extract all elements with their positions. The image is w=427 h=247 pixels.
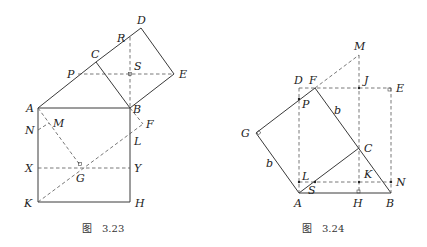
label-a: A (25, 102, 34, 115)
label-e: E (178, 68, 187, 81)
label-k: K (23, 197, 33, 210)
label-a: A (293, 197, 302, 210)
label-j: J (362, 74, 369, 87)
point-k (358, 181, 360, 183)
triangle-acb (38, 62, 130, 108)
label-k: K (363, 168, 373, 181)
geometry-figures: D R C P S E A B M N F L X Y G K H 图 3.23 (0, 0, 427, 247)
label-s: S (308, 184, 316, 197)
label-f: F (145, 118, 154, 131)
label-f: F (308, 74, 317, 87)
label-l: L (301, 170, 309, 183)
label-g: G (241, 127, 250, 140)
label-y: Y (134, 162, 143, 175)
label-x: X (24, 162, 34, 175)
label-h: H (352, 197, 363, 210)
square-abhk (38, 108, 130, 202)
line-kf (38, 124, 143, 202)
label-d: D (293, 74, 303, 87)
figure-3-24: M D F J E P b G b C K L S N A H B 图 3.24 (241, 40, 406, 234)
caption-number: 3.23 (102, 223, 124, 234)
label-m: M (52, 117, 65, 130)
figure-3-23: D R C P S E A B M N F L X Y G K H 图 3.23 (23, 14, 187, 234)
right-angle-marker-e (388, 88, 391, 91)
label-e: E (395, 82, 404, 95)
caption-prefix: 图 (302, 223, 312, 234)
line-nm (38, 123, 49, 130)
label-b: B (385, 197, 394, 210)
label-r: R (116, 32, 125, 45)
label-c: C (91, 48, 100, 61)
point-s (314, 181, 316, 183)
label-l: L (133, 135, 141, 148)
label-n: N (24, 124, 35, 137)
point-l (298, 181, 300, 183)
label-d: D (136, 14, 146, 27)
label-b-lower: b (266, 157, 273, 170)
label-c: C (364, 142, 373, 155)
point-p (298, 98, 300, 100)
label-m: M (353, 40, 366, 53)
label-p: P (66, 68, 75, 81)
label-n: N (395, 176, 406, 189)
label-p: P (301, 98, 310, 111)
caption-prefix: 图 (82, 223, 92, 234)
label-b: B (132, 103, 141, 116)
point-j (358, 87, 360, 89)
label-g: G (76, 172, 85, 185)
label-s: S (134, 60, 142, 73)
caption-number: 3.24 (322, 223, 344, 234)
label-b-upper: b (334, 104, 341, 117)
point-n (390, 181, 392, 183)
label-h: H (134, 197, 145, 210)
line-fm (315, 55, 359, 88)
